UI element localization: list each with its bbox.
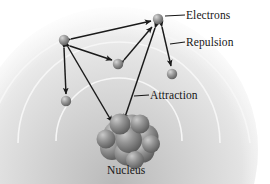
electron-right (167, 69, 177, 79)
label-attraction: Attraction (150, 89, 198, 101)
electron-top-right (153, 14, 163, 24)
label-electrons: Electrons (186, 9, 230, 21)
label-repulsion: Repulsion (186, 36, 234, 48)
label-nucleus: Nucleus (107, 164, 145, 176)
nucleon (142, 135, 160, 153)
atom-force-diagram: Electrons Repulsion Attraction Nucleus (0, 0, 270, 184)
nucleon (110, 114, 131, 135)
nucleon (131, 115, 150, 134)
electron-center (113, 59, 123, 69)
electron-upper-left (59, 35, 69, 45)
diagram-canvas (0, 0, 270, 184)
leader-electrons (165, 15, 185, 16)
nucleon (97, 130, 116, 149)
electron-lower-left (61, 96, 71, 106)
